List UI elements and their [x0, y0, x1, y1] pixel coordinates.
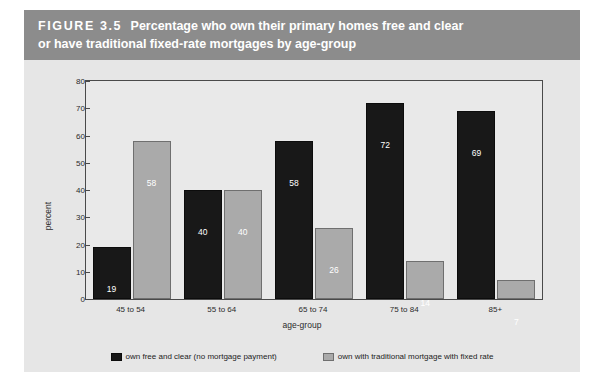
- bar-value-label: 72: [367, 140, 403, 150]
- y-axis-tick-mark: [86, 299, 90, 300]
- bar-fixed-rate-45-to-54: 58: [133, 141, 171, 299]
- x-axis-tick-label: 65 to 74: [273, 305, 353, 314]
- x-axis-tick-label: 85+: [455, 305, 535, 314]
- legend-label-fixed-rate-mortgage: own with traditional mortgage with fixed…: [338, 352, 494, 361]
- bar-fixed-rate-65-to-74: 26: [315, 228, 353, 299]
- y-axis-tick-mark: [86, 245, 90, 246]
- y-axis-tick-label: 60: [63, 131, 85, 140]
- bar-value-label: 40: [225, 227, 261, 237]
- y-axis-tick-mark: [86, 81, 90, 82]
- figure-title-line-2: or have traditional fixed-rate mortgages…: [38, 35, 566, 53]
- figure-title-line-1: FIGURE 3.5 Percentage who own their prim…: [38, 17, 566, 35]
- x-axis-tick-label: 75 to 84: [364, 305, 444, 314]
- y-axis-tick-label: 40: [63, 186, 85, 195]
- legend-label-free-and-clear: own free and clear (no mortgage payment): [126, 352, 277, 361]
- y-axis-tick-label: 80: [63, 77, 85, 86]
- bar-free-and-clear-55-to-64: 40: [184, 190, 222, 299]
- plot-area: 1958404058267214697: [85, 80, 543, 300]
- figure-title-part-1: Percentage who own their primary homes f…: [131, 19, 464, 33]
- bar-value-label: 40: [185, 227, 221, 237]
- y-axis-tick-label: 50: [63, 158, 85, 167]
- bar-free-and-clear-85+: 69: [457, 111, 495, 299]
- bar-value-label: 26: [316, 265, 352, 275]
- bar-free-and-clear-75-to-84: 72: [366, 103, 404, 299]
- legend-swatch-icon-dark: [111, 353, 122, 361]
- x-axis-tick-label: 45 to 54: [91, 305, 171, 314]
- legend-item-free-and-clear: own free and clear (no mortgage payment): [111, 352, 277, 361]
- y-axis-tick-mark: [86, 217, 90, 218]
- bar-value-label: 19: [94, 284, 130, 294]
- x-axis-title: age-group: [24, 320, 580, 330]
- y-axis-tick-label: 70: [63, 104, 85, 113]
- bar-fixed-rate-75-to-84: 14: [406, 261, 444, 299]
- y-axis-tick-mark: [86, 136, 90, 137]
- y-axis-tick-mark: [86, 272, 90, 273]
- legend-item-fixed-rate-mortgage: own with traditional mortgage with fixed…: [323, 352, 494, 361]
- chart-legend: own free and clear (no mortgage payment)…: [24, 352, 580, 361]
- y-axis-tick-label: 0: [63, 295, 85, 304]
- bar-free-and-clear-45-to-54: 19: [93, 247, 131, 299]
- bar-fixed-rate-55-to-64: 40: [224, 190, 262, 299]
- y-axis-tick-mark: [86, 108, 90, 109]
- y-axis: 01020304050607080: [24, 80, 85, 300]
- figure-number-label: FIGURE 3.5: [38, 19, 122, 33]
- bar-free-and-clear-65-to-74: 58: [275, 141, 313, 299]
- y-axis-tick-mark: [86, 190, 90, 191]
- bar-fixed-rate-85+: 7: [497, 280, 535, 299]
- figure-container: FIGURE 3.5 Percentage who own their prim…: [24, 10, 580, 372]
- y-axis-tick-mark: [86, 163, 90, 164]
- y-axis-tick-label: 30: [63, 213, 85, 222]
- y-axis-tick-label: 20: [63, 240, 85, 249]
- legend-swatch-icon-light: [323, 353, 334, 361]
- bar-value-label: 58: [276, 178, 312, 188]
- x-axis-tick-label: 55 to 64: [182, 305, 262, 314]
- chart-panel: percent 01020304050607080 19584040582672…: [24, 60, 580, 372]
- bar-value-label: 58: [134, 178, 170, 188]
- figure-header: FIGURE 3.5 Percentage who own their prim…: [24, 10, 580, 60]
- bar-value-label: 69: [458, 148, 494, 158]
- y-axis-tick-label: 10: [63, 267, 85, 276]
